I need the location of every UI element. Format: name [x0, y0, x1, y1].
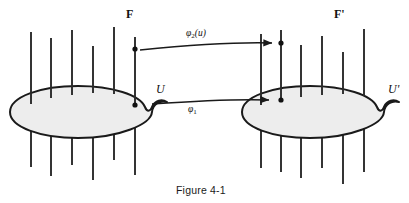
right-base-blob: [242, 86, 399, 138]
right-fiber-point: [278, 40, 283, 45]
label-map-phi2: φ2(u): [186, 29, 206, 40]
label-base-right: U': [388, 83, 399, 95]
label-map-phi1-subscript: 1: [193, 108, 197, 116]
right-base-point: [278, 97, 283, 102]
label-map-phi2-argument: (u): [195, 28, 206, 38]
label-map-phi1: φ1: [188, 105, 197, 116]
figure-caption: Figure 4-1: [176, 185, 226, 196]
figure-container: F F' U U' φ2(u) φ1 Figure 4-1: [0, 0, 409, 203]
left-base-blob: [10, 86, 167, 138]
left-fiber-point: [132, 46, 137, 51]
label-bundle-right: F': [334, 8, 345, 20]
upper-map-arrow: [140, 43, 272, 50]
label-bundle-left: F: [126, 8, 133, 20]
left-base-point: [132, 102, 137, 107]
label-base-left: U: [156, 83, 165, 95]
